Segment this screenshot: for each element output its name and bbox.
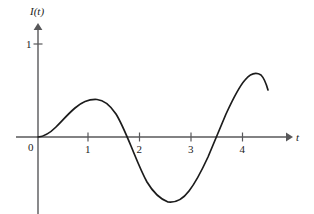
x-axis-arrow-icon xyxy=(286,133,293,142)
y-tick-label-1: 1 xyxy=(26,39,32,50)
current-vs-time-figure: I(t) t 0 1 1 2 3 4 xyxy=(0,0,314,214)
x-tick-label-3: 3 xyxy=(188,144,194,155)
x-tick-label-4-text: 4 xyxy=(240,143,246,155)
y-axis-title-text: I(t) xyxy=(30,5,44,17)
current-curve xyxy=(38,74,268,203)
x-tick-label-2: 2 xyxy=(137,144,143,155)
y-axis-arrow-icon xyxy=(34,23,43,30)
x-tick-label-1-text: 1 xyxy=(85,143,91,155)
y-tick-label-1-text: 1 xyxy=(26,38,32,50)
x-axis-title-text: t xyxy=(296,131,299,143)
plot-canvas xyxy=(0,0,314,214)
x-tick-label-2-text: 2 xyxy=(137,143,143,155)
x-tick-label-3-text: 3 xyxy=(188,143,194,155)
x-tick-label-1: 1 xyxy=(85,144,91,155)
x-axis-title: t xyxy=(296,132,299,143)
origin-label: 0 xyxy=(28,142,34,153)
x-tick-label-4: 4 xyxy=(240,144,246,155)
origin-label-text: 0 xyxy=(28,141,34,153)
y-axis-title: I(t) xyxy=(30,6,44,17)
